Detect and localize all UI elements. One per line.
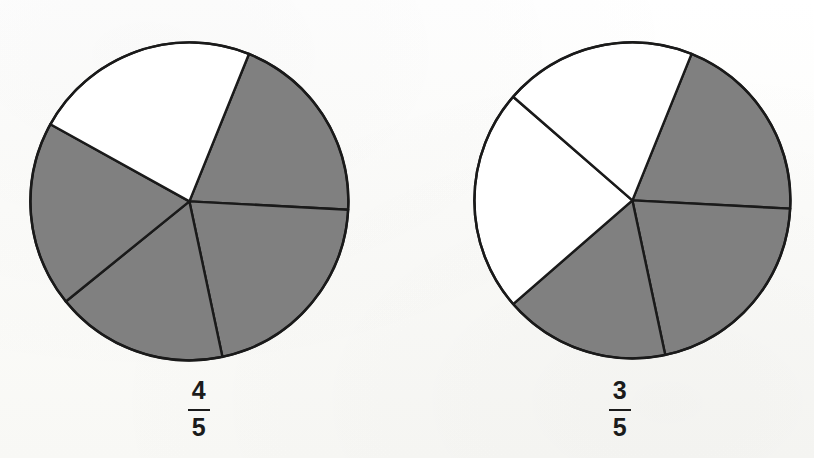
pie-chart-left	[26, 38, 353, 365]
figure-stage: 4 5 3 5	[0, 0, 814, 458]
fraction-numerator: 4	[169, 378, 229, 407]
fraction-bar-icon	[188, 409, 210, 411]
fraction-label-left: 4 5	[169, 378, 229, 442]
fraction-bar-icon	[609, 409, 631, 411]
pie-figure-left	[26, 38, 353, 365]
fraction-label-right: 3 5	[590, 378, 650, 442]
pie-chart-right	[470, 38, 795, 363]
fraction-denominator: 5	[169, 414, 229, 442]
pie-figure-right	[470, 38, 795, 363]
fraction-numerator: 3	[590, 378, 650, 407]
fraction-denominator: 5	[590, 414, 650, 442]
